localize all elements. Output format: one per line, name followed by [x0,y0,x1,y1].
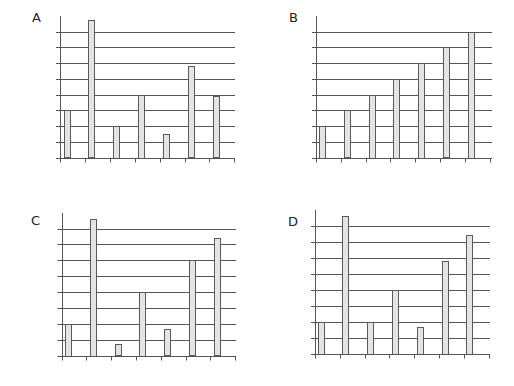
bar-d-3 [368,323,374,355]
bar-a-1 [65,111,71,158]
bar-b-1 [320,127,326,159]
axes-a [56,16,235,163]
bar-c-5 [165,330,171,356]
figure-four-bar-charts: A B C D [0,0,514,386]
panel-label-c: C [31,213,40,228]
bar-c-7 [215,239,221,356]
chart-panel-c: C [31,213,236,361]
gridlines-d [311,227,490,339]
chart-panel-d: D [288,210,490,359]
bar-a-7 [214,97,220,158]
bars-a [65,21,220,159]
bar-d-7 [467,236,473,355]
bar-c-6 [190,261,196,356]
bar-d-5 [418,328,424,355]
bar-d-6 [443,262,449,355]
bar-a-4 [139,96,145,159]
axes-d [311,210,490,359]
bar-c-2 [91,220,97,357]
gridlines-c [58,230,237,341]
bar-a-2 [89,21,95,158]
bar-d-4 [393,291,399,355]
bar-d-1 [319,323,325,355]
panel-label-a: A [32,10,41,25]
bar-c-1 [66,325,72,357]
panel-label-d: D [288,214,298,229]
bar-b-3 [370,96,376,159]
chart-panel-a: A [32,10,235,163]
bars-d [319,217,473,355]
chart-panel-b: B [289,10,492,163]
bar-a-6 [189,67,195,158]
bar-c-4 [140,293,146,357]
bar-a-5 [164,135,170,159]
bar-b-4 [394,80,400,159]
bar-c-3 [116,345,122,356]
gridlines-a [56,33,235,143]
bar-b-5 [419,64,425,159]
axes-b [312,16,492,163]
panel-label-b: B [289,10,298,25]
bar-b-6 [444,48,450,158]
axes-c [58,213,237,361]
gridlines-b [312,33,492,143]
bar-d-2 [343,217,349,355]
bar-b-2 [345,111,351,158]
bar-b-7 [469,33,475,159]
bar-a-3 [114,127,120,159]
bars-c [66,220,221,357]
